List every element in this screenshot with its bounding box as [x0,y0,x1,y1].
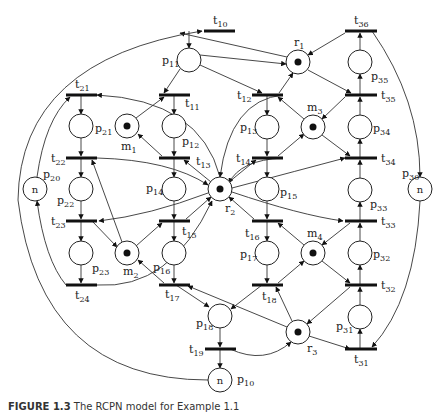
transition-label-t33: t33 [381,215,396,230]
transition-label-t19: t19 [189,343,204,358]
place-p33 [348,178,372,202]
transition-label-t13: t13 [196,155,211,170]
token-m3 [310,124,317,131]
transition-label-t35: t35 [381,89,396,104]
caption-prefix: FIGURE 1.3 [8,401,71,412]
transition-label-t21: t21 [75,78,90,93]
place-label-p23: p23 [92,262,109,277]
place-p35 [348,50,372,74]
caption-text: The RCPN model for Example 1.1 [74,401,240,412]
place-label-r2: r2 [225,202,235,217]
place-label-p13: p13 [240,121,257,136]
place-p32 [348,241,372,265]
transition-label-t22: t22 [51,152,66,167]
place-label-p33: p33 [370,198,387,213]
place-label-p11: p11 [162,54,179,69]
token-m4 [310,250,317,257]
token-m2 [124,250,131,257]
transition-label-t12: t12 [237,89,252,104]
place-p21 [69,114,93,138]
place-label-r1: r1 [294,36,304,51]
figure-caption: FIGURE 1.3 The RCPN model for Example 1.… [8,401,239,412]
place-label-m1: m1 [121,140,137,155]
transition-label-t31: t31 [354,353,369,368]
place-label-m2: m2 [123,265,139,280]
marking-p10: n [217,375,224,386]
place-label-p21: p21 [95,122,112,137]
token-r3 [295,329,302,336]
place-p17 [255,241,279,265]
place-label-p15: p15 [280,186,297,201]
place-label-r3: r3 [307,342,317,357]
token-r2 [217,186,224,193]
marking-p30: n [417,184,424,195]
transition-label-t36: t36 [354,14,369,29]
transition-label-t17: t17 [165,288,180,303]
place-label-m3: m3 [307,101,323,116]
place-p14 [162,177,186,201]
place-label-p17: p17 [240,248,257,263]
token-m1 [124,123,131,130]
transition-label-t16: t16 [245,227,260,242]
transition-label-t15: t15 [182,225,197,240]
place-p16 [162,241,186,265]
transition-label-t11: t11 [185,97,200,112]
place-label-p10: p10 [237,373,254,388]
transition-label-t14: t14 [236,152,251,167]
transition-label-t18: t18 [262,290,277,305]
place-label-m4: m4 [307,227,323,242]
place-label-p32: p32 [373,248,390,263]
place-label-p20: p20 [43,168,60,183]
token-r1 [295,59,302,66]
transition-label-t10: t10 [213,14,228,29]
place-p34 [348,115,372,139]
transition-label-t23: t23 [51,215,66,230]
place-p15 [255,177,279,201]
place-p22 [69,177,93,201]
marking-p20: n [32,184,39,195]
place-label-p14: p14 [146,182,163,197]
place-label-p35: p35 [371,70,388,85]
transition-label-t32: t32 [381,279,396,294]
place-label-p12: p12 [182,135,199,150]
place-label-p34: p34 [373,122,390,137]
place-p11 [177,48,201,72]
transition-label-t24: t24 [75,289,90,304]
place-label-p30: p30 [402,167,419,182]
place-p23 [69,241,93,265]
transition-label-t34: t34 [381,152,396,167]
place-p13 [255,115,279,139]
